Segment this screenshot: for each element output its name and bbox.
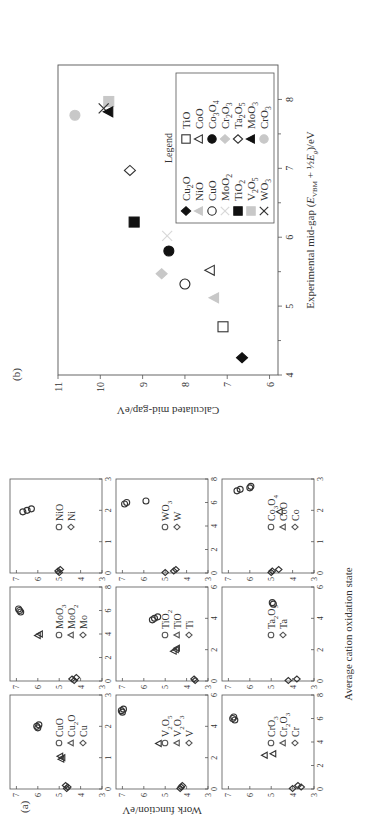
legend-symbol-cr2o3	[280, 740, 285, 746]
legend: LegendCu2​ONiOCuOMoO2​TiO2​V2​O5​WO3​TiO…	[163, 73, 274, 223]
y-tick-label: 7	[224, 685, 233, 689]
legend-label-nio: NiO	[54, 504, 65, 521]
y-tick-label: 5	[267, 793, 276, 797]
y-tick-label: 4	[77, 793, 86, 797]
legend-symbol-cr	[292, 740, 298, 746]
x-tick-label: 2	[316, 508, 325, 512]
x-tick-label: 6	[316, 585, 325, 589]
data-point-cr2o3	[261, 752, 267, 758]
x-axis-title: Average cation oxidation state	[342, 567, 354, 700]
legend-label-coo: CoO	[278, 502, 289, 521]
y-tick-label: 6	[246, 577, 255, 581]
data-point-cro3	[70, 110, 80, 120]
panel-a: (a)Work function/eVAverage cation oxidat…	[10, 477, 354, 817]
y-tick-label: 7	[118, 577, 127, 581]
x-tick-label: 8	[210, 477, 219, 481]
y-tick-label: 6	[34, 793, 43, 797]
legend-label-ti: Ti	[184, 620, 195, 629]
x-tick-label: 8	[284, 97, 295, 102]
x-tick-label: 6	[284, 235, 295, 240]
y-tick-label: 6	[34, 577, 43, 581]
data-point-tio	[218, 322, 228, 332]
data-point-moo2	[162, 231, 172, 241]
x-tick-label: 7	[284, 166, 295, 171]
x-tick-label: 4	[210, 616, 219, 620]
y-tick-label: 3	[204, 793, 213, 797]
y-tick-label: 7	[118, 685, 127, 689]
y-tick-label: 5	[55, 685, 64, 689]
legend-symbol-tio	[174, 632, 179, 638]
x-tick-label: 2	[316, 764, 325, 768]
x-tick-label: 8	[104, 585, 113, 589]
y-tick-label: 4	[77, 685, 86, 689]
data-point-v2o3	[155, 741, 161, 747]
legend-label-cu: Cu	[78, 725, 89, 737]
legend-label-w: W	[172, 511, 183, 521]
data-point-coo	[205, 265, 215, 275]
data-point-ta2o5	[124, 165, 135, 175]
x-axis-title: Experimental mid-gap (EVBM + ½Eg)/eV	[304, 131, 319, 309]
y-tick-label: 6	[140, 577, 149, 581]
x-tick-label: 1	[316, 540, 325, 544]
subplot-v: 345670246V2​O5​V2​O3​V	[116, 693, 219, 797]
y-tick-label: 7	[222, 382, 233, 387]
y-tick-label: 6	[265, 382, 276, 387]
legend-symbol-tio2	[162, 632, 168, 638]
data-point-tio2	[129, 217, 139, 227]
y-tick-label: 6	[246, 793, 255, 797]
legend-symbol-co3o4	[268, 524, 274, 530]
y-tick-label: 7	[224, 577, 233, 581]
legend-symbol-nio	[56, 524, 62, 530]
data-point-moo2	[37, 631, 43, 637]
x-tick-label: 2	[104, 508, 113, 512]
legend-symbol-tio2	[234, 207, 242, 215]
y-tick-label: 3	[98, 685, 107, 689]
panel-b: (b)4567867891011Calculated mid-gap/eVExp…	[10, 65, 319, 417]
x-tick-label: 0	[316, 679, 325, 683]
y-tick-label: 3	[98, 577, 107, 581]
legend-symbol-v	[186, 740, 192, 746]
y-tick-label: 7	[12, 685, 21, 689]
x-tick-label: 2	[210, 548, 219, 552]
y-tick-label: 3	[310, 685, 319, 689]
y-tick-label: 7	[12, 577, 21, 581]
figure-svg: (a)Work function/eVAverage cation oxidat…	[0, 0, 370, 827]
x-tick-label: 3	[104, 477, 113, 481]
y-tick-label: 6	[140, 793, 149, 797]
y-tick-label: 5	[161, 685, 170, 689]
x-tick-label: 6	[104, 609, 113, 613]
y-tick-label: 6	[34, 685, 43, 689]
legend-symbol-v2o5	[247, 207, 255, 215]
x-tick-label: 3	[104, 693, 113, 697]
y-tick-label: 4	[289, 685, 298, 689]
y-tick-label: 9	[138, 382, 149, 387]
x-tick-label: 4	[210, 724, 219, 728]
legend-symbol-co	[292, 524, 298, 530]
x-tick-label: 0	[104, 571, 113, 575]
y-tick-label: 5	[55, 577, 64, 581]
y-tick-label: 3	[310, 793, 319, 797]
subplot-co: 345670123Co3​O4​CoOCo	[222, 477, 325, 581]
panel-b-label: (b)	[10, 368, 23, 381]
x-tick-label: 2	[104, 724, 113, 728]
y-tick-label: 5	[267, 577, 276, 581]
legend-symbol-ta	[280, 632, 286, 638]
legend-label-tio: TiO	[172, 613, 183, 629]
y-tick-label: 4	[183, 793, 192, 797]
x-tick-label: 4	[104, 632, 113, 636]
x-tick-label: 1	[104, 756, 113, 760]
data-point-v2o5	[104, 97, 114, 107]
figure-canvas: (a)Work function/eVAverage cation oxidat…	[0, 0, 370, 827]
data-point-wo3	[143, 498, 149, 504]
data-point-cuo	[180, 279, 190, 289]
x-tick-label: 0	[316, 787, 325, 791]
y-axis-title: Work function/eV	[122, 805, 202, 817]
y-tick-label: 4	[183, 577, 192, 581]
subplot-ni: 345670123NiONi	[10, 477, 113, 581]
y-tick-label: 4	[289, 793, 298, 797]
x-tick-label: 1	[104, 540, 113, 544]
data-point-moo3	[103, 107, 113, 117]
x-tick-label: 4	[284, 373, 295, 378]
x-tick-label: 6	[210, 501, 219, 505]
x-tick-label: 0	[316, 571, 325, 575]
